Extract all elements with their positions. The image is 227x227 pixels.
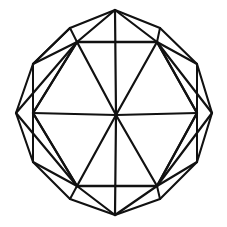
spoke-upper-left <box>77 42 116 115</box>
strut-top-right-vertical <box>157 28 160 42</box>
lattice-bottom-to-hex-left <box>77 186 115 215</box>
figure-root: Geodesic polyhedron wireframe Line drawi… <box>0 0 227 227</box>
spoke-right <box>116 113 197 115</box>
lattice-apex-to-hex-right <box>115 10 157 42</box>
spoke-lower-left <box>77 115 116 186</box>
spoke-lower-right <box>116 115 157 186</box>
lattice-apex-to-hex-left <box>77 10 115 42</box>
strut-top-left-vertical <box>70 28 77 42</box>
geodesic-wireframe-figure: Geodesic polyhedron wireframe Line drawi… <box>0 0 227 227</box>
lattice-apex-to-center <box>115 10 116 115</box>
spoke-left <box>33 113 116 115</box>
spoke-upper-right <box>116 42 157 115</box>
lattice-bottom-to-center <box>115 115 116 215</box>
lattice-hexTL-to-ring-left-mid <box>16 42 77 113</box>
strut-bottom-right-vertical <box>157 186 160 199</box>
lattice-bottom-to-hex-right <box>115 186 157 215</box>
strut-bottom-left-vertical <box>70 186 77 199</box>
